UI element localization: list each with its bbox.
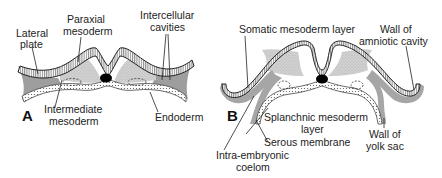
notochord-a bbox=[100, 74, 112, 83]
label-wall-amniotic-1: Wall of bbox=[380, 23, 412, 35]
label-wall-yolk-2: yolk sac bbox=[366, 140, 404, 152]
panel-a: A Lateral plate Paraxial mesoderm Interc… bbox=[16, 9, 204, 127]
ectoderm-a bbox=[18, 48, 194, 78]
label-serous: Serous membrane bbox=[264, 136, 351, 148]
label-coelom-2: coelom bbox=[236, 161, 270, 173]
panel-b: B Somatic mesoderm layer Wall of amnioti… bbox=[216, 23, 429, 173]
label-intermediate-2: mesoderm bbox=[49, 115, 99, 127]
label-coelom-1: Intra-embryonic bbox=[216, 149, 289, 161]
embryo-cross-section-figure: A Lateral plate Paraxial mesoderm Interc… bbox=[0, 0, 442, 178]
label-lateral-2: plate bbox=[20, 38, 43, 50]
label-wall-yolk-1: Wall of bbox=[369, 128, 401, 140]
label-intercellular-2: cavities bbox=[150, 21, 185, 33]
leader-endoderm bbox=[150, 92, 158, 112]
cavity-right-b bbox=[351, 81, 363, 89]
label-intercellular-1: Intercellular bbox=[140, 9, 195, 21]
label-paraxial-2: mesoderm bbox=[63, 25, 113, 37]
label-paraxial-1: Paraxial bbox=[67, 13, 105, 25]
label-splanchnic-1: Splanchnic mesoderm bbox=[264, 111, 368, 123]
label-somatic: Somatic mesoderm layer bbox=[239, 23, 356, 35]
label-endoderm: Endoderm bbox=[155, 111, 204, 123]
notochord-b bbox=[316, 75, 328, 84]
label-intermediate-1: Intermediate bbox=[44, 103, 103, 115]
panel-letter-b: B bbox=[227, 107, 238, 124]
label-splanchnic-2: layer bbox=[301, 123, 324, 135]
label-wall-amniotic-2: amniotic cavity bbox=[359, 35, 429, 47]
leader-somatic bbox=[245, 36, 248, 88]
cavity-left-b bbox=[278, 81, 290, 89]
leader-wall-amniotic bbox=[406, 46, 414, 90]
panel-letter-a: A bbox=[22, 107, 33, 124]
